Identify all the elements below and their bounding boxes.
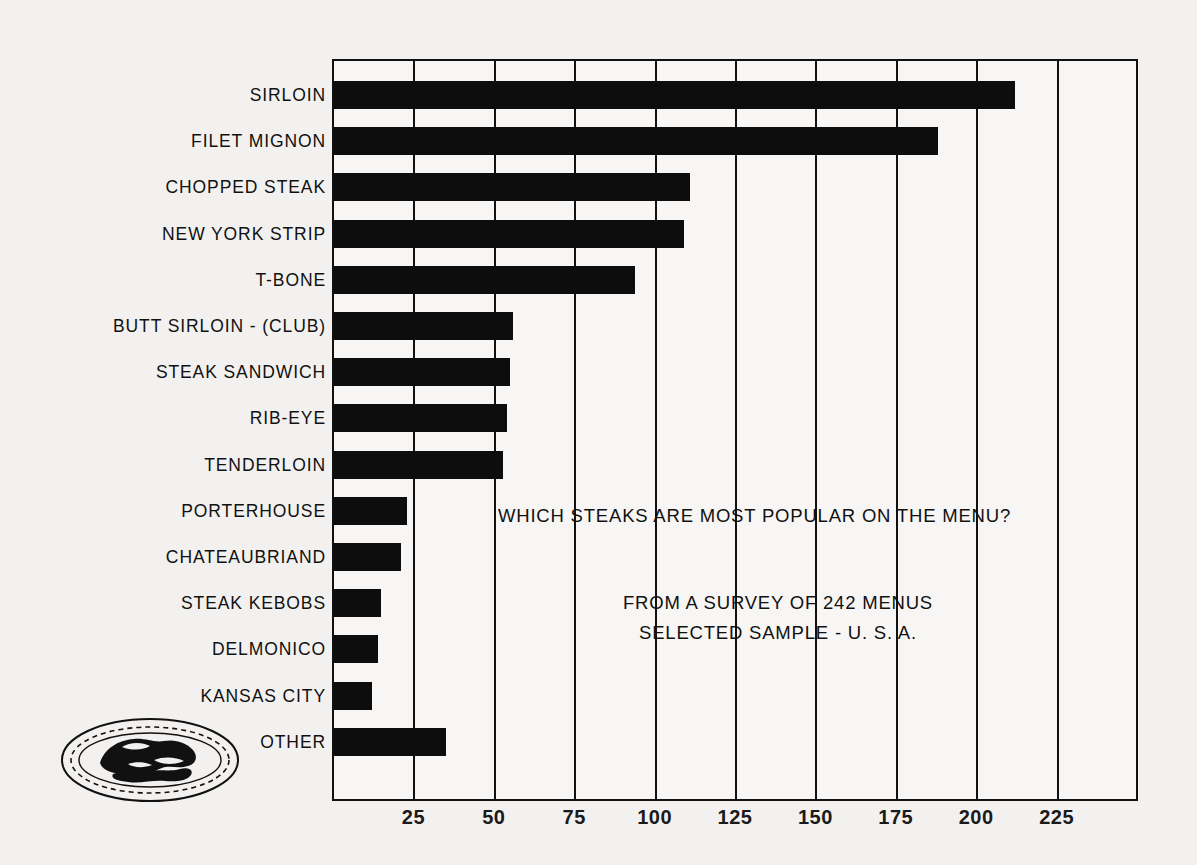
bar xyxy=(333,312,513,340)
x-tick-label: 25 xyxy=(402,806,425,829)
bar xyxy=(333,497,407,525)
survey-line-1: FROM A SURVEY OF 242 MENUS xyxy=(498,588,1058,618)
x-tick-label: 50 xyxy=(482,806,505,829)
category-label: NEW YORK STRIP xyxy=(0,220,326,248)
bar xyxy=(333,81,1015,109)
category-label: STEAK KEBOBS xyxy=(0,589,326,617)
bar xyxy=(333,451,503,479)
bar xyxy=(333,358,510,386)
bar xyxy=(333,220,684,248)
bar xyxy=(333,173,690,201)
x-tick-label: 200 xyxy=(959,806,994,829)
survey-line-2: SELECTED SAMPLE - U. S. A. xyxy=(498,618,1058,648)
bar xyxy=(333,127,938,155)
category-label: CHATEAUBRIAND xyxy=(0,543,326,571)
bar xyxy=(333,589,381,617)
category-label: DELMONICO xyxy=(0,635,326,663)
category-label: STEAK SANDWICH xyxy=(0,358,326,386)
category-label: TENDERLOIN xyxy=(0,451,326,479)
bars-layer xyxy=(333,59,1137,800)
x-tick-label: 100 xyxy=(637,806,672,829)
chart-title-annotation: WHICH STEAKS ARE MOST POPULAR ON THE MEN… xyxy=(498,505,1011,527)
bar xyxy=(333,635,378,663)
x-tick-label: 150 xyxy=(798,806,833,829)
bar xyxy=(333,728,446,756)
category-label: FILET MIGNON xyxy=(0,127,326,155)
x-tick-label: 125 xyxy=(718,806,753,829)
category-label: RIB-EYE xyxy=(0,404,326,432)
x-tick-label: 75 xyxy=(563,806,586,829)
category-label: KANSAS CITY xyxy=(0,682,326,710)
bar xyxy=(333,682,372,710)
category-labels: SIRLOINFILET MIGNONCHOPPED STEAKNEW YORK… xyxy=(0,59,326,800)
bar xyxy=(333,266,635,294)
chart-canvas: SIRLOINFILET MIGNONCHOPPED STEAKNEW YORK… xyxy=(0,0,1197,865)
bar xyxy=(333,543,401,571)
x-tick-label: 175 xyxy=(878,806,913,829)
survey-source-annotation: FROM A SURVEY OF 242 MENUS SELECTED SAMP… xyxy=(498,588,1058,648)
category-label: SIRLOIN xyxy=(0,81,326,109)
x-tick-label: 225 xyxy=(1039,806,1074,829)
category-label: CHOPPED STEAK xyxy=(0,173,326,201)
category-label: T-BONE xyxy=(0,266,326,294)
bar xyxy=(333,404,507,432)
category-label: BUTT SIRLOIN - (CLUB) xyxy=(0,312,326,340)
steak-platter-logo xyxy=(58,716,243,804)
steak-platter-icon xyxy=(58,716,243,804)
category-label: PORTERHOUSE xyxy=(0,497,326,525)
x-axis-tick-labels: 255075100125150175200225 xyxy=(0,806,1197,846)
